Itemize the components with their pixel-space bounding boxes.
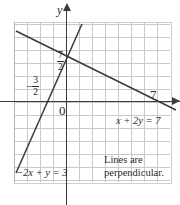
fraction-numerator: 3	[32, 76, 39, 86]
equation-label-line2: −2x + y = 3	[16, 168, 68, 179]
y-axis-label: y	[57, 4, 62, 16]
fraction-numerator: 7	[57, 51, 64, 61]
y-intercept-label-seven-halves: 7 2	[57, 51, 64, 73]
fraction-three-halves: 3 2	[32, 76, 39, 98]
fraction-seven-halves: 7 2	[57, 51, 64, 73]
coordinate-graph-figure: y 0 7 7 2 − 3 2 x + 2y = 7 −2x + y = 3 L…	[0, 0, 180, 205]
fraction-denominator: 2	[32, 88, 39, 98]
line-minus-2x-plus-y-equals-3	[16, 24, 82, 173]
x-intercept-label-7: 7	[150, 88, 157, 101]
perpendicular-note: Lines are perpendicular.	[104, 153, 176, 179]
origin-label: 0	[59, 104, 66, 117]
equation-label-line1: x + 2y = 7	[116, 116, 161, 127]
x-intercept-label-negative-three-halves: − 3 2	[26, 76, 39, 98]
fraction-denominator: 2	[57, 63, 64, 73]
